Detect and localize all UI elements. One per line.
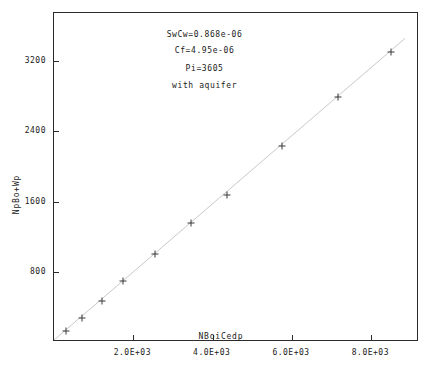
- y-axis-tick-label: 800: [14, 266, 46, 275]
- x-axis-tick: [371, 335, 372, 340]
- x-axis-tick-label: 8.0E+03: [352, 348, 389, 357]
- data-point: [388, 49, 395, 56]
- y-axis-tick-label: 3200: [14, 56, 46, 65]
- y-axis-tick: [54, 272, 59, 273]
- x-axis-tick-label: 2.0E+03: [114, 348, 151, 357]
- data-point: [62, 328, 69, 335]
- y-axis-title: NpBo+Wp: [12, 164, 21, 224]
- x-axis-tick-label: 4.0E+03: [193, 348, 230, 357]
- y-axis-tick: [54, 202, 59, 203]
- data-point: [187, 219, 194, 226]
- y-axis-tick: [54, 61, 59, 62]
- data-point: [152, 251, 159, 258]
- x-axis-tick: [133, 335, 134, 340]
- y-axis-tick-label: 1600: [14, 196, 46, 205]
- chart-annotation: with aquifer: [172, 81, 237, 90]
- x-axis-title: NBoiCedp: [198, 332, 243, 341]
- x-axis-tick: [292, 335, 293, 340]
- chart-annotation: Pi=3605: [186, 64, 224, 73]
- x-axis-tick-label: 6.0E+03: [272, 348, 309, 357]
- plot-area: [54, 13, 417, 340]
- data-point: [223, 191, 230, 198]
- data-point: [279, 143, 286, 150]
- data-point: [334, 94, 341, 101]
- data-point: [78, 315, 85, 322]
- chart-annotation: Cf=4.95e-06: [175, 46, 235, 55]
- chart-annotation: SwCw=0.868e-06: [167, 30, 243, 39]
- data-point: [98, 297, 105, 304]
- trendline: [54, 13, 417, 340]
- y-axis-tick-label: 2400: [14, 126, 46, 135]
- data-point: [120, 278, 127, 285]
- y-axis-tick: [54, 131, 59, 132]
- chart-figure: NpBo+Wp NBoiCedp 2.0E+034.0E+036.0E+038.…: [0, 0, 432, 375]
- plot-frame: [53, 12, 418, 341]
